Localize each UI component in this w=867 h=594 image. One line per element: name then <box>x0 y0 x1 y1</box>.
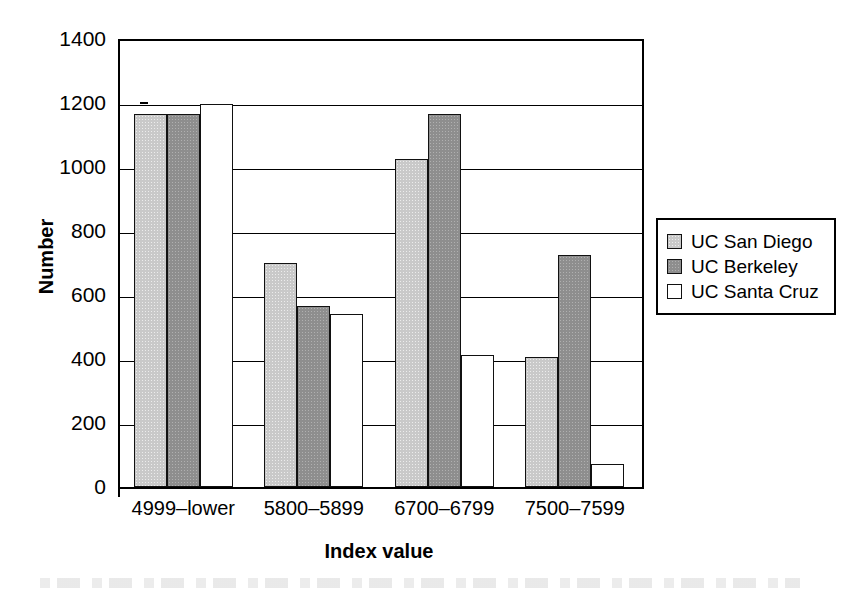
y-axis-tick-label: 1200 <box>36 92 106 113</box>
x-axis-tick-label: 5800–5899 <box>249 496 380 520</box>
y-axis-tick-label: 200 <box>36 412 106 433</box>
bar <box>525 357 558 487</box>
scan-artifact <box>40 578 800 588</box>
x-axis-tick-label: 4999–lower <box>118 496 249 520</box>
y-axis-tick-label: 400 <box>36 348 106 369</box>
legend-item[interactable]: UC Berkeley <box>667 254 824 279</box>
x-axis-line <box>118 487 642 489</box>
y-axis-tick-label: 600 <box>36 284 106 305</box>
bar <box>428 114 461 487</box>
legend-item[interactable]: UC San Diego <box>667 229 824 254</box>
y-axis-tick-label: 1400 <box>36 28 106 49</box>
legend-label: UC San Diego <box>691 231 812 252</box>
y-axis-tick-label: 800 <box>36 220 106 241</box>
legend-label: UC Berkeley <box>691 256 798 277</box>
bar <box>200 104 233 487</box>
legend-swatch-icon <box>667 259 682 274</box>
bar <box>330 314 363 487</box>
y-axis-tick-labels: 0200400600800100012001400 <box>30 0 106 594</box>
y-axis-tick-label: 1000 <box>36 156 106 177</box>
y-axis-tick-label: 0 <box>36 476 106 497</box>
bar <box>167 114 200 487</box>
legend-swatch-icon <box>667 234 682 249</box>
bar <box>264 263 297 487</box>
x-axis-tick-label: 7500–7599 <box>510 496 641 520</box>
x-axis-title: Index value <box>118 540 640 563</box>
bar-chart-figure: Number 0200400600800100012001400 4999–lo… <box>0 0 867 594</box>
bar <box>134 114 167 487</box>
legend: UC San DiegoUC BerkeleyUC Santa Cruz <box>656 218 836 315</box>
bar <box>297 306 330 487</box>
x-axis-tick-label: 6700–6799 <box>379 496 510 520</box>
legend-swatch-icon <box>667 284 682 299</box>
bar <box>558 255 591 487</box>
bar <box>461 355 494 487</box>
bar <box>395 159 428 487</box>
bar-series-container <box>118 39 640 487</box>
legend-item[interactable]: UC Santa Cruz <box>667 279 824 304</box>
legend-label: UC Santa Cruz <box>691 281 819 302</box>
bar <box>591 464 624 487</box>
